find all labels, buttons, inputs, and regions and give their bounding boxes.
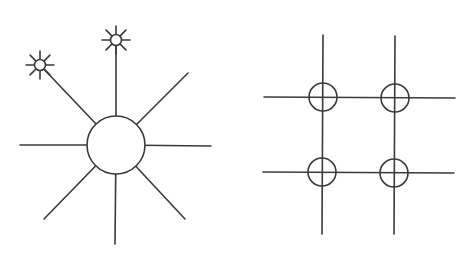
subhub-top-node [111,35,122,46]
star-topology-diagram [20,26,211,244]
horizontal-grid-line [264,97,455,98]
diagram-canvas [0,0,471,257]
mesh-grid-diagram [263,35,455,234]
vertical-grid-line [394,36,395,234]
central-hub-node [87,116,145,174]
subhub-top-left-node [35,60,46,71]
horizontal-grid-line [263,172,454,173]
vertical-grid-line [322,35,323,234]
